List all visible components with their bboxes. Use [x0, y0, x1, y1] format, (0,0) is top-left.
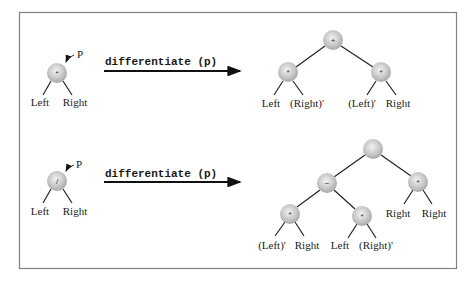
- input-tree-2: / P Left Right: [31, 158, 87, 217]
- panel-1: * P Left Right differentiate (p) + * * L…: [31, 30, 410, 110]
- pointer-arrow-icon: [66, 165, 74, 171]
- node-symbol: *: [286, 68, 289, 77]
- node-symbol: *: [288, 210, 291, 219]
- leaf-label: Left: [331, 239, 349, 251]
- input-tree-1: * P Left Right: [31, 48, 87, 108]
- pointer-arrow-icon: [66, 55, 74, 62]
- leaf-label: (Right)': [359, 239, 393, 252]
- leaf-label: Right: [295, 239, 319, 251]
- right-label: Right: [63, 205, 87, 217]
- node-symbol: *: [55, 69, 58, 78]
- node-symbol: +: [331, 36, 336, 45]
- leaf-label: (Right)': [290, 97, 324, 110]
- leaf-label: Left: [262, 97, 280, 109]
- pointer-label: P: [77, 48, 83, 60]
- right-label: Right: [63, 96, 87, 108]
- node-symbol: −: [325, 179, 330, 188]
- node-symbol: *: [416, 178, 419, 187]
- root-node: [363, 139, 383, 159]
- leaf-label: Right: [386, 207, 410, 219]
- leaf-label: Right: [386, 97, 410, 109]
- node-symbol: *: [379, 68, 382, 77]
- output-tree-2: − * * * (Left)' Right Left (Right)' Righ…: [258, 139, 446, 252]
- node-symbol: *: [360, 212, 363, 221]
- diagram-frame: [20, 13, 457, 269]
- output-tree-1: + * * Left (Right)' (Left)' Right: [262, 30, 410, 110]
- leaf-label: (Left)': [258, 239, 286, 252]
- panel-2: / P Left Right differentiate (p) − *: [31, 139, 446, 252]
- left-label: Left: [31, 205, 49, 217]
- pointer-label: P: [76, 158, 82, 170]
- diagram-canvas: * P Left Right differentiate (p) + * * L…: [0, 0, 476, 286]
- leaf-label: Right: [422, 207, 446, 219]
- operation-label: differentiate (p): [105, 168, 217, 180]
- operation-label: differentiate (p): [105, 56, 217, 68]
- leaf-label: (Left)': [348, 97, 376, 110]
- left-label: Left: [31, 96, 49, 108]
